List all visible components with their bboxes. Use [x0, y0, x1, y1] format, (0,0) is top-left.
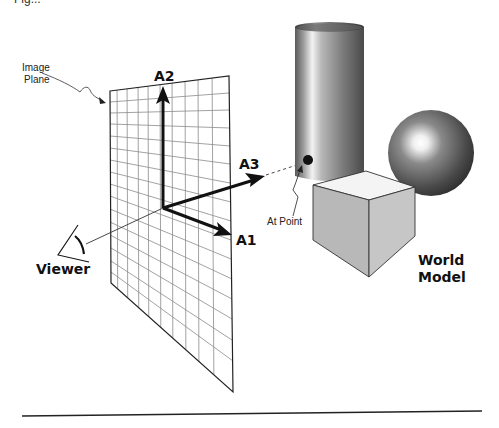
cube-front-face [313, 185, 369, 277]
diagram-canvas: Fig... [0, 0, 499, 428]
image-plane-label-line1: Image [22, 63, 50, 73]
image-plane-label-line2: Plane [24, 75, 50, 85]
at-point-label: At Point [267, 217, 302, 227]
at-point-dot [303, 155, 313, 165]
axis-a3-arrowhead [245, 173, 265, 187]
image-plane-leader [42, 73, 103, 101]
axis-a1-label: A1 [236, 233, 257, 247]
world-model-label-line2: Model [418, 270, 466, 284]
image-plane [110, 60, 233, 400]
eye-icon [58, 225, 89, 262]
bottom-rule [22, 411, 482, 416]
axis-a2-label: A2 [154, 69, 175, 83]
diagram-svg [0, 0, 499, 428]
axis-a3-label: A3 [239, 157, 260, 171]
cube [313, 171, 415, 277]
viewer-label: Viewer [36, 262, 90, 276]
cube-side-face [369, 187, 415, 277]
world-model-label-line1: World [418, 253, 464, 267]
figure-caption-cut: Fig... [14, 0, 41, 6]
